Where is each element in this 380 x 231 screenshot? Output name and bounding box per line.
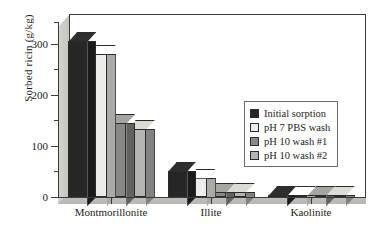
y-tick-label-100: 100 — [32, 141, 49, 152]
bar-side-face — [226, 192, 235, 206]
legend-swatch-icon — [250, 109, 259, 118]
legend-swatch-icon — [250, 123, 259, 132]
bar-front-face — [168, 171, 187, 198]
y-tick-label-0: 0 — [43, 192, 49, 203]
legend-swatch-icon — [250, 151, 259, 160]
legend-swatch-icon — [250, 137, 259, 146]
legend-item-4: pH 10 wash #2 — [250, 148, 330, 162]
legend-item-label: pH 10 wash #1 — [264, 136, 327, 147]
bar-side-face — [126, 123, 135, 206]
bar-side-face — [87, 41, 96, 206]
bar-front-face — [68, 41, 87, 197]
legend-item-1: Initial sorption — [250, 106, 330, 120]
x-tick-illite — [211, 197, 212, 204]
bar-side-face — [187, 171, 196, 207]
legend-item-label: pH 7 PBS wash — [264, 122, 330, 133]
y-tick-200 — [51, 95, 58, 96]
x-tick-montmorillonite — [111, 197, 112, 204]
y-tick-label-300: 300 — [32, 39, 49, 50]
y-tick-minor-350 — [54, 22, 59, 23]
x-axis-label-illite: Illite — [201, 206, 222, 218]
legend-item-label: pH 10 wash #2 — [264, 150, 327, 161]
bar-side-face — [246, 192, 255, 206]
bar-illite-initial-sorption — [168, 171, 187, 198]
x-tick-kaolinite — [311, 197, 312, 204]
y-tick-minor-250 — [54, 69, 59, 70]
x-axis-label-kaolinite: Kaolinite — [291, 206, 332, 218]
chart-legend: Initial sorptionpH 7 PBS washpH 10 wash … — [244, 101, 338, 167]
figure-bar-chart: Sorbed ricin (g/kg) 300 200 100 0 Montmo… — [0, 0, 380, 231]
y-tick-100 — [51, 146, 58, 147]
y-tick-label-200: 200 — [32, 90, 49, 101]
x-axis-label-montmorillonite: Montmorillonite — [75, 206, 148, 218]
legend-item-2: pH 7 PBS wash — [250, 120, 330, 134]
bar-montmorillonite-initial-sorption — [68, 41, 87, 197]
y-tick-minor-150 — [54, 120, 59, 121]
y-tick-minor-50 — [54, 171, 59, 172]
legend-item-label: Initial sorption — [264, 108, 326, 119]
bar-side-face — [107, 54, 116, 206]
legend-item-3: pH 10 wash #1 — [250, 134, 330, 148]
bar-side-face — [146, 129, 155, 206]
y-tick-300 — [51, 44, 58, 45]
